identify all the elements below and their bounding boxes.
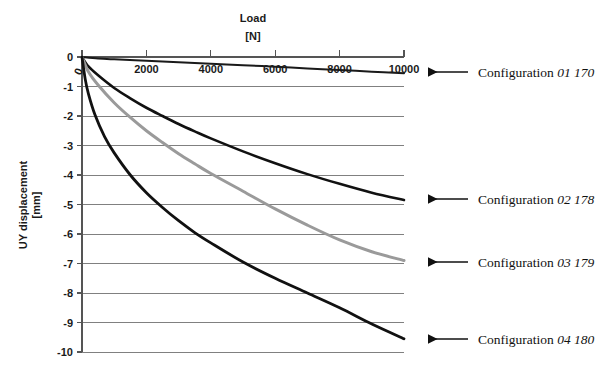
- y-axis-title: UY displacement: [17, 160, 29, 249]
- annotation-label-4: Configuration 04 180: [478, 332, 595, 347]
- annotation-prefix-3: Configuration: [478, 255, 557, 270]
- y-tick-label-neg8: -8: [63, 287, 73, 299]
- uy-displacement-vs-load-chart: 02000400060008000100000-1-2-3-4-5-6-7-8-…: [0, 0, 614, 374]
- annotation-prefix-4: Configuration: [478, 332, 557, 347]
- y-tick-label-neg7: -7: [63, 258, 73, 270]
- annotation-label-3: Configuration 03 179: [478, 255, 595, 270]
- annotation-prefix-2: Configuration: [478, 192, 557, 207]
- annotation-label-1: Configuration 01 170: [478, 65, 595, 80]
- annotation-number-4: 04 180: [557, 332, 594, 347]
- annotation-number-1: 01 170: [557, 65, 594, 80]
- y-tick-label-neg10: -10: [57, 346, 73, 358]
- annotation-number-3: 03 179: [557, 255, 594, 270]
- y-tick-label-neg3: -3: [63, 140, 73, 152]
- annotation-prefix-1: Configuration: [478, 65, 557, 80]
- series-line-3: [82, 57, 404, 261]
- y-axis-title-unit: [mm]: [30, 191, 42, 218]
- series-line-1: [82, 57, 404, 73]
- gridlines-group: [82, 87, 404, 353]
- y-tick-label-neg4: -4: [63, 169, 74, 181]
- y-tick-label-neg9: -9: [63, 317, 73, 329]
- chart-container: 02000400060008000100000-1-2-3-4-5-6-7-8-…: [0, 0, 614, 374]
- y-tick-label-neg6: -6: [63, 228, 73, 240]
- y-tick-label-neg5: -5: [63, 199, 73, 211]
- chart-title: Load: [240, 12, 266, 24]
- y-tick-label-0: 0: [67, 51, 73, 63]
- chart-title-unit: [N]: [245, 30, 261, 42]
- annotation-number-2: 02 178: [557, 192, 594, 207]
- y-tick-label-neg1: -1: [63, 81, 73, 93]
- annotation-label-2: Configuration 02 178: [478, 192, 595, 207]
- x-tick-label-6000: 6000: [263, 63, 287, 75]
- series-line-2: [82, 57, 404, 200]
- x-tick-label-2000: 2000: [134, 63, 158, 75]
- series-group: [82, 57, 404, 339]
- annotations-group: Configuration 01 170Configuration 02 178…: [428, 65, 595, 347]
- y-tick-label-neg2: -2: [63, 110, 73, 122]
- titles-group: Load[N]UY displacement[mm]: [17, 12, 266, 249]
